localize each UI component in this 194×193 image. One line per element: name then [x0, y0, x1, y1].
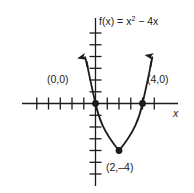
point-root-four-marker: [139, 100, 146, 107]
function-title-prefix: f(x) = x: [99, 15, 131, 27]
point-vertex-marker: [116, 147, 123, 154]
parabola-graph-figure: f(x) = x2 − 4x (0,0) (4,0) (2,–4) x: [0, 0, 194, 193]
label-point-vertex: (2,–4): [106, 162, 133, 173]
function-title-suffix: − 4x: [135, 15, 158, 27]
label-point-origin: (0,0): [47, 74, 69, 85]
function-title: f(x) = x2 − 4x: [99, 16, 158, 27]
point-origin-marker: [92, 100, 99, 107]
right-branch-arrow-icon: [150, 57, 152, 68]
label-point-root-four: (4,0): [147, 74, 169, 85]
graph-canvas: [0, 0, 194, 193]
x-axis-label: x: [173, 108, 178, 119]
